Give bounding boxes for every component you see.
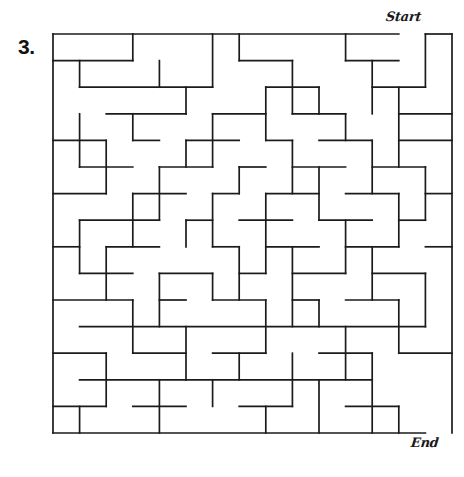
maze-page: 3. Start End [0,0,464,477]
maze-wall-group [53,34,452,433]
maze-grid [0,0,464,477]
